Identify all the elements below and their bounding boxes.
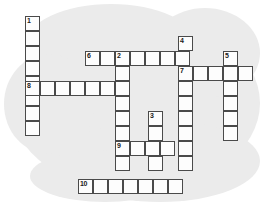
crossword-cell-numbered[interactable]: 10 [78,179,93,194]
crossword-cell[interactable] [178,81,193,96]
crossword-cell-number: 3 [150,112,154,120]
crossword-cell-numbered[interactable]: 6 [85,51,100,66]
crossword-cell[interactable] [100,51,115,66]
crossword-cell[interactable] [25,121,40,136]
crossword-cell[interactable] [145,141,160,156]
crossword-cell[interactable] [130,51,145,66]
crossword-cell-number: 1 [27,17,31,25]
crossword-grid: 16245789310 [0,0,272,209]
crossword-cell[interactable] [223,111,238,126]
crossword-cell-numbered[interactable]: 4 [178,36,193,51]
crossword-cell-number: 7 [180,67,184,75]
crossword-cell[interactable] [115,96,130,111]
crossword-cell[interactable] [115,111,130,126]
crossword-cell[interactable] [138,179,153,194]
crossword-cell[interactable] [175,51,190,66]
crossword-cell-numbered[interactable]: 9 [115,141,130,156]
crossword-cell[interactable] [223,126,238,141]
crossword-cell-numbered[interactable]: 8 [25,81,40,96]
crossword-cell-numbered[interactable]: 7 [178,66,193,81]
crossword-cell-number: 10 [80,180,87,188]
crossword-cell[interactable] [115,66,130,81]
crossword-cell-numbered[interactable]: 5 [223,51,238,66]
crossword-cell[interactable] [93,179,108,194]
crossword-cell[interactable] [115,156,130,171]
crossword-cell[interactable] [115,126,130,141]
crossword-cell[interactable] [178,126,193,141]
crossword-cell-number: 6 [87,52,91,60]
crossword-cell[interactable] [148,126,163,141]
crossword-cell[interactable] [160,141,175,156]
crossword-cell[interactable] [238,66,253,81]
crossword-cell[interactable] [178,141,193,156]
crossword-cell[interactable] [25,31,40,46]
crossword-cell[interactable] [223,66,238,81]
crossword-cell[interactable] [193,66,208,81]
crossword-cell[interactable] [40,81,55,96]
crossword-cell-numbered[interactable]: 2 [115,51,130,66]
crossword-cell[interactable] [130,141,145,156]
crossword-cell-numbered[interactable]: 3 [148,111,163,126]
crossword-cell[interactable] [25,46,40,61]
crossword-cell-number: 2 [117,52,121,60]
crossword-cell-number: 5 [225,52,229,60]
crossword-cell[interactable] [25,106,40,121]
crossword-cell-number: 4 [180,37,184,45]
crossword-cell[interactable] [25,61,40,76]
crossword-cell[interactable] [148,156,163,171]
crossword-cell[interactable] [178,156,193,171]
crossword-cell-number: 8 [27,82,31,90]
crossword-cell[interactable] [160,51,175,66]
crossword-cell[interactable] [85,81,100,96]
crossword-cell[interactable] [178,96,193,111]
crossword-cell[interactable] [115,81,130,96]
crossword-cell-numbered[interactable]: 1 [25,16,40,31]
crossword-cell[interactable] [108,179,123,194]
crossword-puzzle: 16245789310 [0,0,272,209]
crossword-cell[interactable] [223,81,238,96]
crossword-cell[interactable] [168,179,183,194]
crossword-cell[interactable] [123,179,138,194]
crossword-cell[interactable] [55,81,70,96]
crossword-cell[interactable] [223,96,238,111]
crossword-cell-number: 9 [117,142,121,150]
crossword-cell[interactable] [178,111,193,126]
crossword-cell[interactable] [100,81,115,96]
crossword-cell[interactable] [70,81,85,96]
crossword-cell[interactable] [145,51,160,66]
crossword-cell[interactable] [153,179,168,194]
crossword-cell[interactable] [208,66,223,81]
